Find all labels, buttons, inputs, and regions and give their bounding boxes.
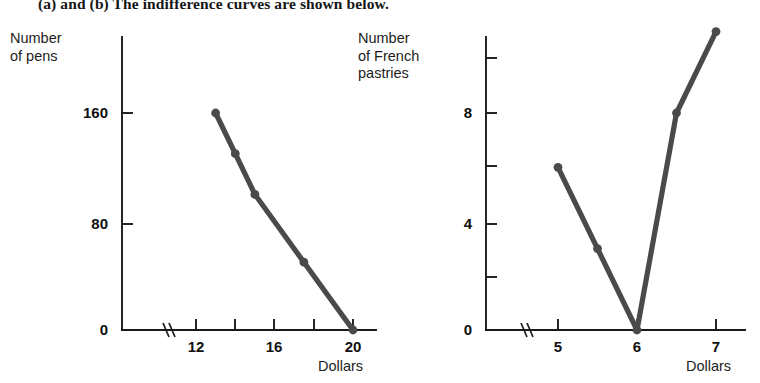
data-point xyxy=(712,27,721,36)
pastries-chart-indifference-curve xyxy=(558,32,716,330)
figure-container: (a) and (b) The indifference curves are … xyxy=(0,0,760,383)
data-point xyxy=(633,326,642,335)
pastries-chart-plot xyxy=(0,0,760,383)
data-point xyxy=(554,163,563,172)
data-point xyxy=(672,109,681,118)
data-point xyxy=(593,244,602,253)
